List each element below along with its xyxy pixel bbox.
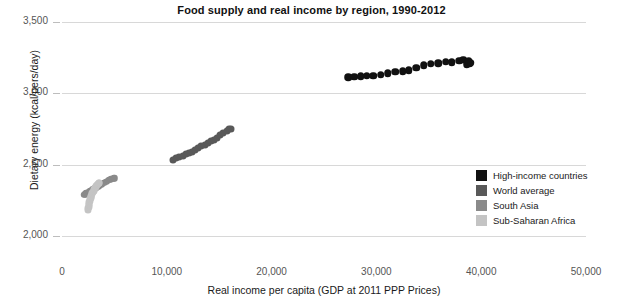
legend-item[interactable]: High-income countries	[476, 168, 621, 182]
y-tick-label: 3,500	[0, 15, 48, 26]
legend-swatch	[476, 185, 487, 196]
x-tick-label: 40,000	[466, 266, 497, 277]
data-point	[467, 59, 475, 67]
x-tick-label: 0	[59, 266, 65, 277]
x-tick-label: 50,000	[571, 266, 602, 277]
y-tick-label: 2,000	[0, 229, 48, 240]
y-tick-mark	[53, 22, 60, 23]
legend-label: South Asia	[493, 200, 538, 211]
legend-swatch	[476, 170, 487, 181]
legend-item[interactable]: South Asia	[476, 198, 621, 212]
y-tick-mark	[53, 93, 60, 94]
y-tick-mark	[53, 165, 60, 166]
x-tick-label: 20,000	[256, 266, 287, 277]
y-tick-label: 2,500	[0, 158, 48, 169]
data-point	[227, 125, 234, 132]
y-tick-mark	[53, 236, 60, 237]
legend-swatch	[476, 200, 487, 211]
data-point	[96, 179, 103, 186]
legend-item[interactable]: Sub-Saharan Africa	[476, 213, 621, 227]
legend-label: Sub-Saharan Africa	[493, 215, 575, 226]
data-point	[112, 175, 119, 182]
y-tick-label: 3,000	[0, 86, 48, 97]
x-tick-label: 10,000	[152, 266, 183, 277]
gridline	[62, 236, 586, 237]
gridline	[62, 93, 586, 94]
legend-label: High-income countries	[493, 170, 588, 181]
gridline	[62, 22, 586, 23]
y-axis-title: Dietary energy (kcal/pers/day)	[28, 0, 40, 270]
legend-swatch	[476, 215, 487, 226]
x-axis-title: Real income per capita (GDP at 2011 PPP …	[62, 284, 586, 296]
legend-label: World average	[493, 185, 555, 196]
chart-title: Food supply and real income by region, 1…	[0, 4, 623, 16]
gridline	[62, 165, 586, 166]
chart-legend: High-income countriesWorld averageSouth …	[476, 168, 621, 228]
x-tick-label: 30,000	[361, 266, 392, 277]
legend-item[interactable]: World average	[476, 183, 621, 197]
